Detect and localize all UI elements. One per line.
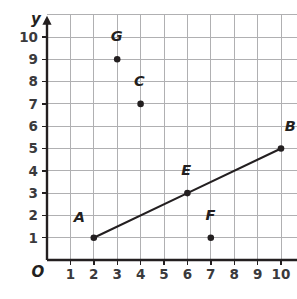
point-label-G: G bbox=[111, 28, 123, 44]
plotted-points: ABCEFG bbox=[73, 28, 296, 241]
axes-group bbox=[42, 16, 297, 265]
x-tick-label: 1 bbox=[66, 266, 75, 282]
x-tick-label: 6 bbox=[183, 266, 192, 282]
coordinate-plane-figure: 1234567891012345678910 ABCEFG Oxy bbox=[0, 0, 297, 299]
x-tick-label: 9 bbox=[253, 266, 262, 282]
y-tick-label: 7 bbox=[29, 96, 38, 112]
point-marker-F bbox=[208, 234, 215, 241]
tick-marks bbox=[42, 37, 281, 265]
point-marker-A bbox=[91, 234, 98, 241]
x-tick-label: 5 bbox=[159, 266, 168, 282]
point-label-A: A bbox=[73, 209, 85, 225]
y-tick-label: 3 bbox=[29, 185, 38, 201]
point-marker-E bbox=[184, 190, 191, 197]
origin-label: O bbox=[32, 263, 45, 281]
x-tick-label: 10 bbox=[272, 266, 291, 282]
y-tick-label: 4 bbox=[29, 163, 38, 179]
x-tick-label: 3 bbox=[112, 266, 121, 282]
y-axis-label: y bbox=[31, 10, 42, 28]
y-tick-label: 9 bbox=[29, 51, 38, 67]
y-tick-label: 5 bbox=[29, 140, 38, 156]
point-label-E: E bbox=[181, 162, 191, 178]
x-tick-label: 4 bbox=[136, 266, 145, 282]
y-tick-label: 1 bbox=[29, 230, 38, 246]
coordinate-plane-svg: 1234567891012345678910 ABCEFG Oxy bbox=[0, 0, 297, 299]
point-marker-B bbox=[278, 145, 285, 152]
point-label-C: C bbox=[134, 73, 145, 89]
y-axis-arrowhead bbox=[42, 16, 51, 25]
point-label-F: F bbox=[205, 207, 215, 223]
tick-labels: 1234567891012345678910 bbox=[19, 29, 290, 282]
x-tick-label: 8 bbox=[229, 266, 238, 282]
point-marker-C bbox=[137, 101, 144, 108]
x-tick-label: 2 bbox=[89, 266, 98, 282]
y-tick-label: 8 bbox=[29, 73, 38, 89]
y-tick-label: 2 bbox=[29, 207, 38, 223]
x-tick-label: 7 bbox=[206, 266, 215, 282]
point-label-B: B bbox=[285, 118, 296, 134]
point-marker-G bbox=[114, 56, 121, 63]
y-tick-label: 10 bbox=[19, 29, 38, 45]
y-tick-label: 6 bbox=[29, 118, 38, 134]
